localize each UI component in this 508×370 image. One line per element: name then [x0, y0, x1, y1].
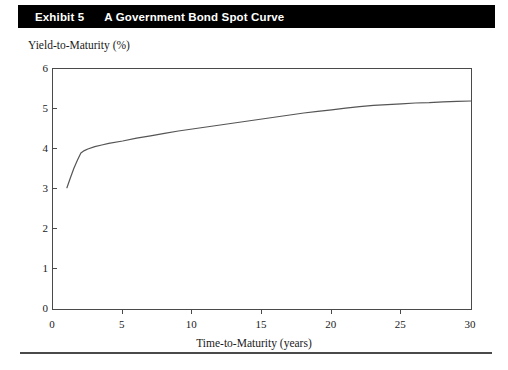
- y-axis-tick-labels: 0123456: [30, 68, 48, 308]
- y-axis-label: Yield-to-Maturity (%): [28, 39, 130, 51]
- y-tick-mark: [52, 108, 57, 109]
- y-tick-mark: [52, 268, 57, 269]
- y-tick-mark: [52, 188, 57, 189]
- x-tick-label: 20: [316, 318, 346, 330]
- x-tick-label: 5: [107, 318, 137, 330]
- y-tick-mark: [52, 228, 57, 229]
- y-tick-label: 3: [32, 183, 48, 194]
- y-tick-mark: [52, 148, 57, 149]
- x-tick-mark: [191, 309, 192, 314]
- x-tick-mark: [331, 309, 332, 314]
- x-tick-mark: [261, 309, 262, 314]
- x-tick-label: 10: [176, 318, 206, 330]
- exhibit-figure: Exhibit 5 A Government Bond Spot Curve Y…: [0, 0, 508, 370]
- chart-area: Yield-to-Maturity (%) 0123456 0510152025…: [0, 28, 508, 348]
- bottom-divider: [20, 352, 492, 354]
- x-axis-label: Time-to-Maturity (years): [0, 337, 508, 349]
- exhibit-header-bar: Exhibit 5 A Government Bond Spot Curve: [18, 5, 495, 28]
- y-tick-label: 6: [32, 63, 48, 74]
- y-tick-label: 5: [32, 103, 48, 114]
- x-tick-label: 25: [385, 318, 415, 330]
- y-tick-label: 1: [32, 263, 48, 274]
- x-tick-mark: [122, 309, 123, 314]
- x-tick-label: 0: [37, 318, 67, 330]
- x-tick-mark: [400, 309, 401, 314]
- exhibit-title: A Government Bond Spot Curve: [104, 11, 284, 23]
- y-tick-label: 2: [32, 223, 48, 234]
- exhibit-number: Exhibit 5: [35, 11, 84, 23]
- x-axis-tick-labels: 051015202530: [0, 309, 508, 339]
- x-tick-label: 15: [246, 318, 276, 330]
- y-tick-label: 4: [32, 143, 48, 154]
- spot-curve-line: [67, 101, 471, 188]
- spot-curve-plot: [53, 69, 471, 309]
- plot-frame: [52, 68, 472, 310]
- x-tick-label: 30: [455, 318, 485, 330]
